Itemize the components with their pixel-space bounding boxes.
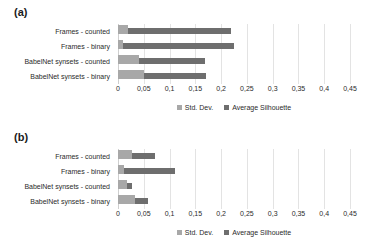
x-tick-label: 0,4 — [319, 85, 329, 92]
category-label: BabelNet synsets - counted — [0, 54, 114, 69]
figure-two-panel-bar-charts: (a) Frames - counted Frames - binary Bab… — [0, 0, 368, 250]
category-label: BabelNet synsets - counted — [0, 179, 114, 194]
bar-row — [118, 54, 350, 69]
x-tick-label: 0,15 — [189, 210, 203, 217]
bar-row — [118, 24, 350, 39]
x-tick-label: 0,25 — [240, 85, 254, 92]
panel-b-x-axis: 00,050,10,150,20,250,30,350,40,45 — [118, 210, 350, 222]
x-tick-label: 0,3 — [268, 210, 278, 217]
panel-a-plot-area — [118, 24, 350, 84]
bar-average-silhouette — [118, 43, 234, 49]
x-tick-label: 0,45 — [343, 210, 357, 217]
x-tick-label: 0,35 — [292, 210, 306, 217]
panel-a-label: (a) — [14, 6, 27, 18]
panel-b-label: (b) — [14, 131, 28, 143]
bar-row — [118, 69, 350, 84]
panel-a-x-axis: 00,050,10,150,20,250,30,350,40,45 — [118, 85, 350, 97]
bar-std-dev — [118, 180, 127, 189]
x-tick-label: 0,05 — [137, 210, 151, 217]
panel-b-bar-rows — [118, 149, 350, 209]
bar-std-dev — [118, 70, 144, 79]
bar-row — [118, 39, 350, 54]
panel-b: (b) Frames - counted Frames - binary Bab… — [0, 125, 368, 250]
x-tick-label: 0,3 — [268, 85, 278, 92]
x-tick-label: 0,15 — [189, 85, 203, 92]
x-tick-label: 0,05 — [137, 85, 151, 92]
category-label: BabelNet synsets - binary — [0, 69, 114, 84]
panel-b-plot-area — [118, 149, 350, 209]
legend-item-average-silhouette: Average Silhouette — [224, 229, 291, 236]
panel-b-category-labels: Frames - counted Frames - binary BabelNe… — [0, 149, 114, 209]
legend-item-std-dev: Std. Dev. — [177, 229, 213, 236]
bar-std-dev — [118, 55, 139, 64]
legend-swatch-icon — [177, 105, 182, 110]
x-tick-label: 0,35 — [292, 85, 306, 92]
x-tick-label: 0,4 — [319, 210, 329, 217]
legend-label: Average Silhouette — [232, 229, 291, 236]
legend-item-std-dev: Std. Dev. — [177, 104, 213, 111]
x-tick-label: 0,25 — [240, 210, 254, 217]
x-tick-label: 0,1 — [165, 85, 175, 92]
category-label: Frames - binary — [0, 39, 114, 54]
panel-a-legend: Std. Dev. Average Silhouette — [118, 104, 350, 111]
gridline — [350, 149, 351, 209]
x-tick-label: 0,2 — [216, 85, 226, 92]
bar-std-dev — [118, 40, 123, 49]
panel-a: (a) Frames - counted Frames - binary Bab… — [0, 0, 368, 125]
x-tick-label: 0 — [116, 85, 120, 92]
x-tick-label: 0,2 — [216, 210, 226, 217]
x-tick-label: 0 — [116, 210, 120, 217]
bar-std-dev — [118, 150, 132, 159]
gridline — [350, 24, 351, 84]
panel-b-legend: Std. Dev. Average Silhouette — [118, 229, 350, 236]
bar-row — [118, 149, 350, 164]
panel-a-bar-rows — [118, 24, 350, 84]
bar-row — [118, 179, 350, 194]
legend-label: Std. Dev. — [185, 104, 213, 111]
legend-swatch-icon — [224, 230, 229, 235]
x-tick-label: 0,45 — [343, 85, 357, 92]
category-label: Frames - counted — [0, 24, 114, 39]
bar-average-silhouette — [118, 28, 231, 34]
bar-std-dev — [118, 195, 135, 204]
bar-row — [118, 194, 350, 209]
legend-swatch-icon — [177, 230, 182, 235]
x-tick-label: 0,1 — [165, 210, 175, 217]
panel-a-category-labels: Frames - counted Frames - binary BabelNe… — [0, 24, 114, 84]
legend-swatch-icon — [224, 105, 229, 110]
category-label: Frames - counted — [0, 149, 114, 164]
category-label: BabelNet synsets - binary — [0, 194, 114, 209]
bar-average-silhouette — [118, 168, 175, 174]
category-label: Frames - binary — [0, 164, 114, 179]
bar-std-dev — [118, 165, 124, 174]
legend-item-average-silhouette: Average Silhouette — [224, 104, 291, 111]
legend-label: Average Silhouette — [232, 104, 291, 111]
bar-std-dev — [118, 25, 128, 34]
legend-label: Std. Dev. — [185, 229, 213, 236]
bar-row — [118, 164, 350, 179]
